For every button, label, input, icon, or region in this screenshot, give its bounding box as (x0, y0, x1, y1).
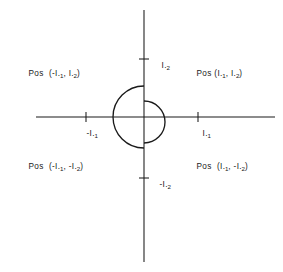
quadrant-1-pos-text: Pos (197, 69, 212, 78)
quadrant-2-label: Pos (-I.1, I.2) (18, 62, 80, 87)
axes-and-arcs-svg (0, 0, 283, 272)
negative-x-tick-label: -I.1 (76, 122, 98, 147)
positive-y-tick-label: I.2 (151, 54, 170, 79)
positive-x-tick-label: I.1 (192, 122, 211, 147)
quadrant-1-label: Pos (I.1, I.2) (186, 62, 242, 87)
negative-y-tick-label: -I.2 (149, 173, 171, 198)
positive-y-subscript: 2 (166, 64, 169, 71)
quadrant-4-pos-text: Pos (197, 162, 212, 171)
quadrant-diagram-figure: Pos (-I.1, I.2) Pos (I.1, I.2) Pos (-I.1… (0, 0, 283, 272)
quadrant-3-close-paren: ) (80, 162, 83, 171)
quadrant-2-close-paren: ) (77, 69, 80, 78)
negative-x-subscript: 1 (94, 132, 97, 139)
quadrant-4-label: Pos (I.1, -I.2) (186, 155, 248, 180)
quadrant-1-close-paren: ) (239, 69, 242, 78)
quadrant-3-pos-text: Pos (29, 162, 44, 171)
small-right-arc (144, 101, 165, 143)
quadrant-2-pos-text: Pos (29, 69, 44, 78)
negative-y-subscript: 2 (167, 183, 170, 190)
positive-x-subscript: 1 (207, 132, 210, 139)
quadrant-3-label: Pos (-I.1, -I.2) (18, 155, 83, 180)
quadrant-4-close-paren: ) (245, 162, 248, 171)
